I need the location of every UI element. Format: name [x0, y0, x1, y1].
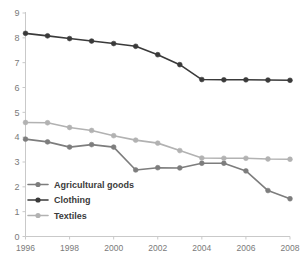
x-axis-tick-label: 2008: [281, 243, 300, 253]
data-point: [199, 156, 204, 161]
y-axis-tick-label: 7: [14, 58, 19, 68]
y-axis-tick-label: 2: [14, 182, 19, 192]
data-point: [288, 157, 293, 162]
y-axis-tick-label: 0: [14, 232, 19, 242]
data-point: [89, 39, 94, 44]
legend-item-label: Agricultural goods: [54, 180, 134, 190]
data-point: [221, 77, 226, 82]
y-axis-tick-label: 4: [14, 132, 19, 142]
data-point: [244, 169, 249, 174]
data-point: [45, 120, 50, 125]
data-point: [67, 125, 72, 130]
data-point: [89, 128, 94, 133]
x-axis-tick-label: 2004: [192, 243, 211, 253]
y-axis-tick-label: 1: [14, 207, 19, 217]
data-point: [266, 78, 271, 83]
data-point: [155, 141, 160, 146]
y-axis-tick-label: 8: [14, 33, 19, 43]
data-point: [244, 77, 249, 82]
legend-marker-icon: [35, 182, 40, 187]
data-point: [45, 33, 50, 38]
data-point: [288, 78, 293, 83]
data-point: [221, 156, 226, 161]
data-point: [177, 62, 182, 67]
data-point: [23, 31, 28, 36]
plot-background: [0, 0, 301, 260]
data-point: [89, 142, 94, 147]
data-point: [177, 166, 182, 171]
data-point: [177, 148, 182, 153]
data-point: [133, 44, 138, 49]
data-point: [244, 156, 249, 161]
x-axis-tick-label: 1996: [16, 243, 35, 253]
chart-canvas: 0123456789 1996199820002002200420062008 …: [0, 0, 301, 260]
legend-marker-icon: [35, 197, 40, 202]
data-point: [288, 196, 293, 201]
data-point: [23, 120, 28, 125]
legend-item-label: Clothing: [54, 195, 91, 205]
data-point: [155, 52, 160, 57]
data-point: [111, 41, 116, 46]
y-axis-tick-label: 5: [14, 108, 19, 118]
x-axis-tick-label: 2000: [104, 243, 123, 253]
y-axis-tick-label: 3: [14, 157, 19, 167]
data-point: [199, 161, 204, 166]
data-point: [23, 137, 28, 142]
data-point: [133, 138, 138, 143]
data-point: [133, 168, 138, 173]
data-point: [155, 165, 160, 170]
line-chart: 0123456789 1996199820002002200420062008 …: [0, 0, 301, 260]
legend-item-label: Textiles: [54, 211, 87, 221]
data-point: [111, 145, 116, 150]
data-point: [67, 145, 72, 150]
data-point: [266, 188, 271, 193]
y-axis-tick-label: 6: [14, 83, 19, 93]
data-point: [67, 36, 72, 41]
legend-marker-icon: [35, 213, 40, 218]
x-axis-tick-label: 2006: [236, 243, 255, 253]
x-axis-tick-label: 2002: [148, 243, 167, 253]
y-axis-tick-label: 9: [14, 8, 19, 18]
x-axis-tick-label: 1998: [60, 243, 79, 253]
data-point: [266, 157, 271, 162]
data-point: [45, 139, 50, 144]
data-point: [111, 133, 116, 138]
data-point: [221, 161, 226, 166]
data-point: [199, 77, 204, 82]
